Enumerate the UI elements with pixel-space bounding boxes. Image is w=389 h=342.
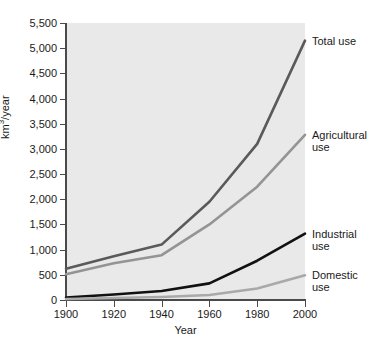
series-label-domestic-use: Domestic use [312,269,358,293]
y-tick-label: 5,500 [29,18,57,29]
y-tick-label: 2,000 [29,194,57,205]
y-axis-title-tail: /year [0,95,11,119]
y-tick-mark [60,73,67,74]
y-tick-mark [60,99,67,100]
x-axis-title: Year [66,324,305,336]
y-tick-mark [60,250,67,251]
y-axis-line [65,23,67,301]
y-tick-mark [60,48,67,49]
y-tick-mark [60,275,67,276]
y-tick-mark [60,124,67,125]
y-tick-mark [60,149,67,150]
y-tick-mark [60,174,67,175]
y-tick-label: 3,000 [29,144,57,155]
y-tick-label: 3,500 [29,119,57,130]
y-tick-label: 1,000 [29,245,57,256]
y-axis-title-base: km [0,124,11,139]
y-tick-mark [60,199,67,200]
x-tick-mark [257,300,258,307]
series-label-industrial-use: Industrial use [312,228,357,252]
y-tick-label: 2,500 [29,169,57,180]
plot-area [66,23,305,300]
y-tick-mark [60,23,67,24]
x-tick-label: 1900 [44,309,88,320]
y-tick-label: 0 [51,295,57,306]
x-tick-mark [66,300,67,307]
y-tick-label: 5,000 [29,43,57,54]
y-tick-label: 4,000 [29,94,57,105]
series-label-agricultural-use: Agricultural use [312,129,367,153]
y-tick-label: 4,500 [29,68,57,79]
x-tick-mark [209,300,210,307]
chart-figure: 5,5005,0004,5004,0003,5003,0002,5002,000… [0,0,389,342]
x-axis-line [65,299,306,301]
x-tick-label: 2000 [283,309,327,320]
y-tick-label: 1,500 [29,219,57,230]
x-tick-mark [162,300,163,307]
y-tick-label: 500 [39,270,57,281]
y-axis-title-superscript: 3 [0,120,6,124]
y-axis-title: km3/year [0,95,11,139]
series-label-total-use: Total use [312,35,356,47]
x-tick-label: 1940 [140,309,184,320]
x-tick-label: 1920 [92,309,136,320]
x-tick-mark [114,300,115,307]
x-tick-label: 1980 [235,309,279,320]
x-tick-label: 1960 [187,309,231,320]
y-tick-mark [60,224,67,225]
x-tick-mark [305,300,306,307]
